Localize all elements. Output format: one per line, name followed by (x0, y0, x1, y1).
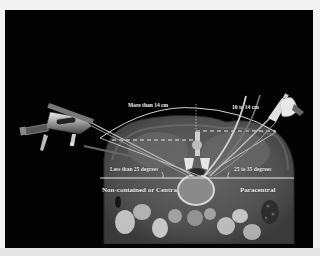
label-medial-angle: Less than 25 degrees (110, 166, 158, 172)
label-paracentral-zone: Paracentral (240, 186, 275, 194)
ct-diagram (0, 0, 320, 256)
label-central-zone: Non-contained or Central (102, 186, 179, 194)
label-medial-distance: More than 14 cm (128, 102, 168, 108)
label-lateral-distance: 10 to 14 cm (232, 104, 259, 110)
ct-slice (104, 116, 294, 245)
vertebral-body (178, 175, 214, 205)
label-lateral-angle: 25 to 35 degrees (234, 166, 271, 172)
